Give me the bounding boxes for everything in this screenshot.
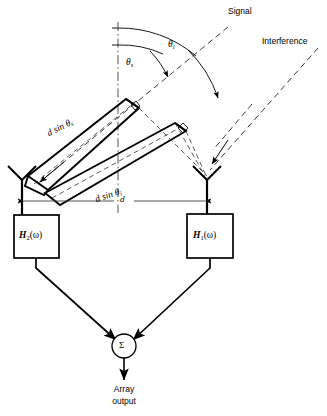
filter-right-label: H1(ω) xyxy=(193,230,229,241)
summer-wiring xyxy=(36,258,210,380)
figure-canvas: Signal Interference θs θi d sin θs d sin… xyxy=(0,0,327,416)
theta-i-label: θi xyxy=(168,39,174,50)
filter-left-label: H2(ω) xyxy=(19,230,55,241)
summer-symbol: Σ xyxy=(119,340,124,350)
filter-left-arg: (ω) xyxy=(30,230,43,240)
filter-right-arg: (ω) xyxy=(204,230,217,240)
array-output-line2: output xyxy=(100,396,148,406)
array-output-line1: Array xyxy=(100,384,148,394)
diagram-vector-layer xyxy=(0,0,327,416)
antenna-element-right xyxy=(193,166,221,214)
angle-arc-theta-s xyxy=(112,45,168,77)
signal-label: Signal xyxy=(228,6,252,16)
theta-s-label: θs xyxy=(126,57,133,68)
spacing-label: d xyxy=(120,194,125,204)
interference-ray xyxy=(210,48,318,170)
theta-i-subscript: i xyxy=(173,43,175,50)
interference-label: Interference xyxy=(262,36,307,46)
theta-s-subscript: s xyxy=(131,61,134,68)
